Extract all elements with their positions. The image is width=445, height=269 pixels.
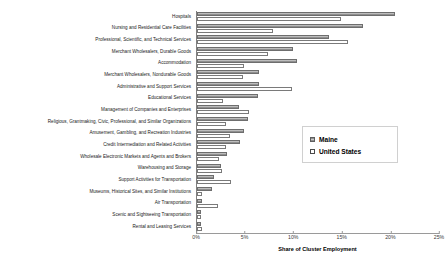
category-label: Rental and Leasing Services — [0, 221, 194, 233]
bar-united-states — [197, 99, 223, 103]
bar-row — [197, 221, 439, 233]
category-label: Administrative and Support Services — [0, 81, 194, 93]
category-label: Merchant Wholesalers, Nondurable Goods — [0, 69, 194, 81]
category-label: Hospitals — [0, 11, 194, 23]
bar-row — [197, 34, 439, 46]
x-axis-tick-mark — [196, 231, 197, 234]
bar-row — [197, 69, 439, 81]
bar-united-states — [197, 64, 244, 68]
bar-united-states — [197, 29, 273, 33]
x-axis-tick-mark — [439, 231, 440, 234]
legend-label-united-states: United States — [319, 148, 361, 155]
bar-united-states — [197, 204, 218, 208]
bar-united-states — [197, 122, 226, 126]
legend-swatch-united-states-icon — [310, 149, 315, 154]
bar-row — [197, 81, 439, 93]
cluster-employment-bar-chart: HospitalsNursing and Residential Care Fa… — [0, 0, 445, 269]
x-axis-tick-mark — [342, 231, 343, 234]
bar-united-states — [197, 40, 348, 44]
bar-maine — [197, 187, 212, 191]
x-axis-title: Share of Cluster Employment — [196, 246, 439, 252]
x-axis-tick-label: 10% — [288, 234, 298, 240]
chart-legend: Maine United States — [302, 126, 398, 163]
plot-area — [196, 11, 439, 233]
bar-row — [197, 104, 439, 116]
bar-maine — [197, 59, 297, 63]
legend-item-maine: Maine — [310, 136, 390, 143]
x-axis-tick-label: 25% — [434, 234, 444, 240]
category-label: Religious, Grantmaking, Civic, Professio… — [0, 116, 194, 128]
bar-united-states — [197, 227, 202, 231]
bar-united-states — [197, 110, 249, 114]
bar-maine — [197, 12, 395, 16]
bar-maine — [197, 164, 221, 168]
category-label: Museums, Historical Sites, and Similar I… — [0, 186, 194, 198]
bar-row — [197, 46, 439, 58]
bar-united-states — [197, 192, 202, 196]
bar-maine — [197, 129, 244, 133]
category-label: Nursing and Residential Care Facilities — [0, 23, 194, 35]
legend-item-united-states: United States — [310, 148, 390, 155]
bar-row — [197, 23, 439, 35]
category-label: Management of Companies and Enterprises — [0, 104, 194, 116]
bar-maine — [197, 94, 258, 98]
category-label: Air Transportation — [0, 198, 194, 210]
bar-maine — [197, 82, 259, 86]
bar-row — [197, 93, 439, 105]
bar-maine — [197, 175, 214, 179]
bar-maine — [197, 140, 240, 144]
bar-rows — [197, 11, 439, 233]
category-label: Credit Intermediation and Related Activi… — [0, 139, 194, 151]
bar-united-states — [197, 17, 341, 21]
bar-row — [197, 198, 439, 210]
bar-maine — [197, 152, 227, 156]
bar-maine — [197, 222, 201, 226]
bar-maine — [197, 47, 293, 51]
category-label: Professional, Scientific, and Technical … — [0, 34, 194, 46]
bar-row — [197, 174, 439, 186]
x-axis-ticks: 0%5%10%15%20%25% — [196, 234, 439, 246]
category-label: Wholesale Electronic Markets and Agents … — [0, 151, 194, 163]
x-axis-tick-label: 15% — [337, 234, 347, 240]
bar-united-states — [197, 134, 230, 138]
legend-label-maine: Maine — [319, 136, 338, 143]
bar-united-states — [197, 52, 268, 56]
category-label: Educational Services — [0, 93, 194, 105]
bar-united-states — [197, 157, 219, 161]
category-label: Amusement, Gambling, and Recreation Indu… — [0, 128, 194, 140]
category-label: Scenic and Sightseeing Transportation — [0, 209, 194, 221]
bar-row — [197, 163, 439, 175]
bar-row — [197, 186, 439, 198]
bar-maine — [197, 24, 363, 28]
bar-united-states — [197, 169, 222, 173]
x-axis-tick-label: 5% — [241, 234, 249, 240]
bar-united-states — [197, 180, 231, 184]
category-label: Merchant Wholesalers, Durable Goods — [0, 46, 194, 58]
legend-swatch-maine-icon — [310, 137, 315, 142]
bar-maine — [197, 210, 201, 214]
bar-row — [197, 11, 439, 23]
bar-maine — [197, 35, 329, 39]
category-axis-labels: HospitalsNursing and Residential Care Fa… — [0, 11, 194, 233]
bar-united-states — [197, 75, 243, 79]
category-label: Warehousing and Storage — [0, 163, 194, 175]
bar-united-states — [197, 87, 292, 91]
x-axis-tick-label: 20% — [385, 234, 395, 240]
bar-maine — [197, 199, 202, 203]
x-axis-tick-mark — [390, 231, 391, 234]
category-label: Accommodation — [0, 58, 194, 70]
bar-maine — [197, 105, 239, 109]
x-axis-tick-label: 0% — [192, 234, 200, 240]
category-label: Support Activities for Transportation — [0, 174, 194, 186]
bar-united-states — [197, 145, 226, 149]
x-axis-tick-mark — [293, 231, 294, 234]
bar-row — [197, 58, 439, 70]
bar-maine — [197, 117, 248, 121]
x-axis-tick-mark — [245, 231, 246, 234]
bar-united-states — [197, 215, 201, 219]
bar-row — [197, 209, 439, 221]
bar-maine — [197, 70, 259, 74]
